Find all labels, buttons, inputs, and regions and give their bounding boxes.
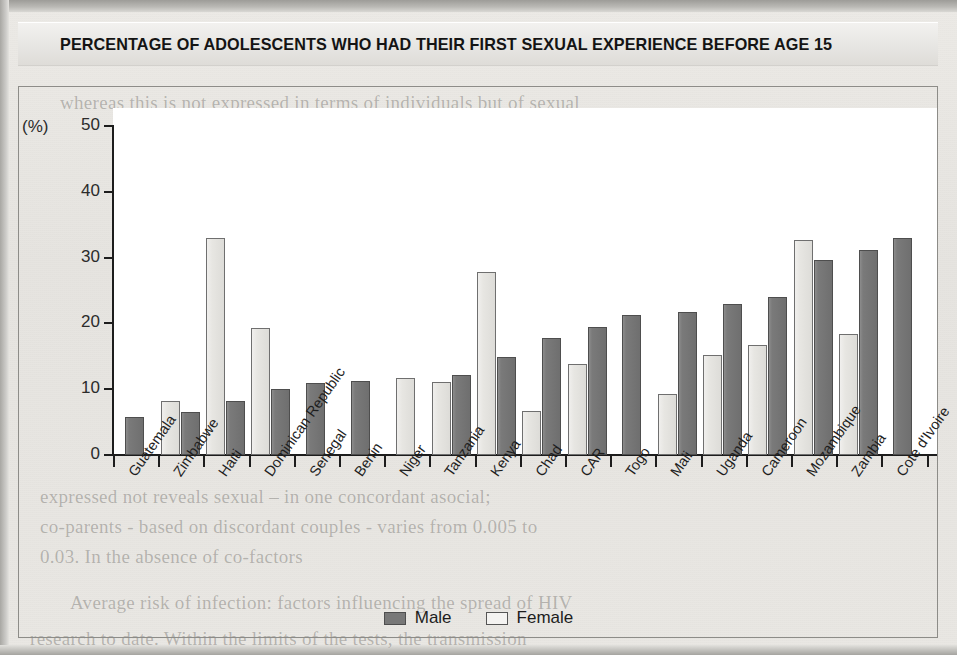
- scanned-page: whereas this is not expressed in terms o…: [0, 0, 957, 655]
- x-tick-14: [746, 456, 748, 467]
- page-bottom-edge: [0, 645, 957, 655]
- bar-male-zambia: [859, 250, 878, 455]
- bar-male-chad: [542, 338, 561, 455]
- x-tick-5: [339, 456, 341, 467]
- bar-male-haiti: [226, 401, 245, 455]
- legend-label-male: Male: [415, 608, 452, 628]
- x-tick-1: [158, 456, 160, 467]
- page-top-edge: [0, 0, 957, 12]
- bar-female-niger: [396, 378, 415, 455]
- male-swatch: [384, 612, 406, 625]
- y-tick-label-10: 10: [60, 378, 100, 398]
- y-tick-40: [104, 191, 112, 193]
- bar-female-car: [568, 364, 587, 455]
- page-title: PERCENTAGE OF ADOLESCENTS WHO HAD THEIR …: [18, 35, 832, 54]
- x-tick-0: [113, 456, 115, 467]
- y-tick-label-0: 0: [60, 444, 100, 464]
- female-swatch: [486, 612, 508, 625]
- x-tick-8: [475, 456, 477, 467]
- y-tick-label-40: 40: [60, 181, 100, 201]
- y-axis-line: [112, 125, 114, 456]
- x-tick-2: [203, 456, 205, 467]
- x-tick-7: [429, 456, 431, 467]
- chart-title-band: PERCENTAGE OF ADOLESCENTS WHO HAD THEIR …: [18, 22, 938, 65]
- y-tick-50: [104, 125, 112, 127]
- bar-male-benin: [351, 381, 370, 455]
- bar-female-uganda: [703, 355, 722, 455]
- bar-male-mali: [678, 312, 697, 455]
- bar-female-tanzania: [432, 382, 451, 455]
- x-tick-18: [927, 456, 929, 467]
- y-tick-20: [104, 322, 112, 324]
- bar-male-car: [588, 327, 607, 455]
- y-axis-unit-label: (%): [22, 117, 48, 137]
- x-tick-13: [701, 456, 703, 467]
- y-tick-10: [104, 388, 112, 390]
- x-tick-17: [881, 456, 883, 467]
- x-tick-11: [610, 456, 612, 467]
- x-tick-12: [655, 456, 657, 467]
- y-tick-label-30: 30: [60, 247, 100, 267]
- chart-legend: MaleFemale: [0, 608, 957, 628]
- x-tick-15: [791, 456, 793, 467]
- page-left-edge: [0, 0, 9, 655]
- legend-item-female: Female: [486, 608, 574, 628]
- x-tick-16: [836, 456, 838, 467]
- legend-label-female: Female: [517, 608, 574, 628]
- bar-female-dominican-republic: [251, 328, 270, 455]
- x-tick-3: [249, 456, 251, 467]
- bar-female-mali: [658, 394, 677, 455]
- y-tick-0: [104, 454, 112, 456]
- bar-male-mozambique: [814, 260, 833, 455]
- x-tick-4: [294, 456, 296, 467]
- x-tick-6: [384, 456, 386, 467]
- x-tick-10: [565, 456, 567, 467]
- bar-female-chad: [522, 411, 541, 455]
- bar-male-togo: [622, 315, 641, 455]
- y-tick-30: [104, 257, 112, 259]
- y-tick-label-50: 50: [60, 115, 100, 135]
- y-tick-label-20: 20: [60, 312, 100, 332]
- legend-item-male: Male: [384, 608, 452, 628]
- x-tick-9: [520, 456, 522, 467]
- bar-male-cote-d-ivoire: [893, 238, 912, 455]
